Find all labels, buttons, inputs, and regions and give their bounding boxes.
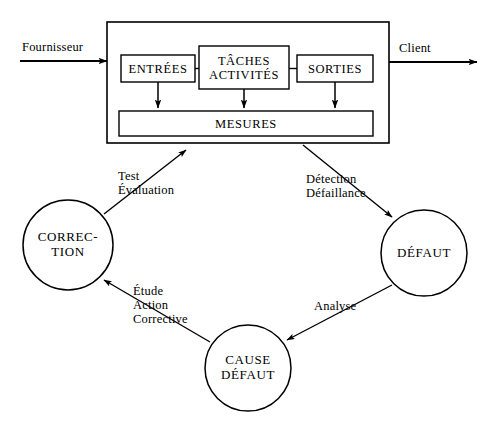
detection-defaillance-label: Détection Défaillance — [306, 172, 406, 200]
sorties-label: SORTIES — [297, 55, 373, 82]
client-label: Client — [399, 41, 469, 55]
correction-label: CORREC- TION — [23, 224, 113, 266]
analyse-label: Analyse — [314, 299, 394, 313]
etude-action-corrective-label: Étude Action Corrective — [133, 284, 223, 326]
fournisseur-label: Fournisseur — [22, 40, 112, 54]
test-evaluation-label: Test Évaluation — [118, 169, 208, 197]
process-feedback-loop-diagram: Fournisseur Client ENTRÉES TÂCHES ACTIVI… — [0, 0, 497, 429]
entrees-label: ENTRÉES — [121, 55, 195, 82]
defaut-label: DÉFAUT — [379, 243, 469, 263]
cause-defaut-label: CAUSE DÉFAUT — [203, 348, 293, 388]
taches-activites-label: TÂCHES ACTIVITÉS — [199, 46, 289, 89]
mesures-label: MESURES — [119, 111, 373, 136]
